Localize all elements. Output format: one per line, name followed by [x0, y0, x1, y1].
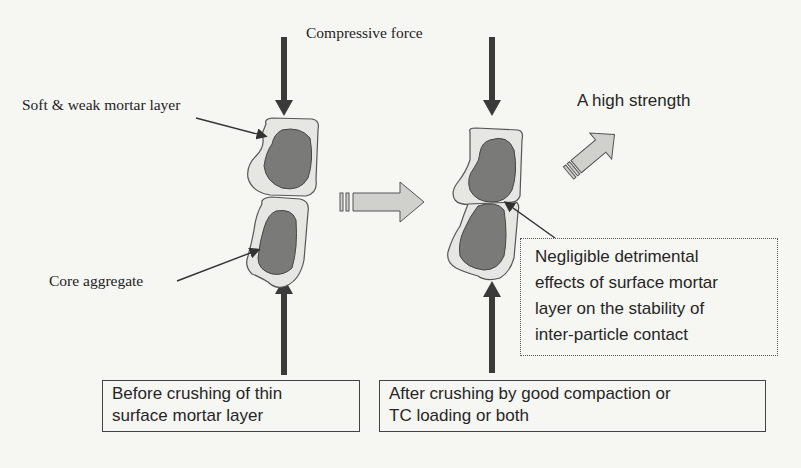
high-strength-label: A high strength: [577, 91, 690, 111]
compressive-force-label: Compressive force: [306, 24, 423, 42]
before-crushing-box: Before crushing of thin surface mortar l…: [102, 380, 360, 432]
high-strength-block-arrow: [558, 121, 626, 186]
effect-line-1: Negligible detrimental: [535, 244, 763, 270]
compressive-force-arrow-bottom-left: [275, 278, 293, 375]
mortar-layer-label: Soft & weak mortar layer: [22, 96, 180, 114]
negligible-effects-box: Negligible detrimental effects of surfac…: [520, 238, 778, 356]
effect-line-3: layer on the stability of: [535, 296, 763, 322]
compressive-force-arrow-top-left: [275, 37, 293, 116]
leader-mortar-layer: [196, 118, 265, 136]
before-crushing-line-2: surface mortar layer: [112, 405, 350, 427]
particle-top-after: [453, 128, 522, 205]
before-crushing-line-1: Before crushing of thin: [112, 383, 350, 405]
compressive-force-arrow-top-right: [483, 37, 501, 116]
after-crushing-line-2: TC loading or both: [389, 405, 756, 427]
transition-block-arrow: [340, 182, 424, 222]
core-aggregate-label: Core aggregate: [49, 272, 143, 290]
particle-bottom-after: [448, 202, 519, 280]
leader-core-aggregate: [177, 250, 258, 281]
after-crushing-box: After crushing by good compaction or TC …: [379, 380, 766, 432]
effect-line-4: inter-particle contact: [535, 322, 763, 348]
particle-top-before: [248, 118, 319, 196]
diagram-canvas: Compressive force Soft & weak mortar lay…: [0, 0, 801, 468]
effect-line-2: effects of surface mortar: [535, 270, 763, 296]
after-crushing-line-1: After crushing by good compaction or: [389, 383, 756, 405]
particle-bottom-before: [247, 197, 309, 287]
compressive-force-arrow-bottom-right: [483, 281, 501, 373]
